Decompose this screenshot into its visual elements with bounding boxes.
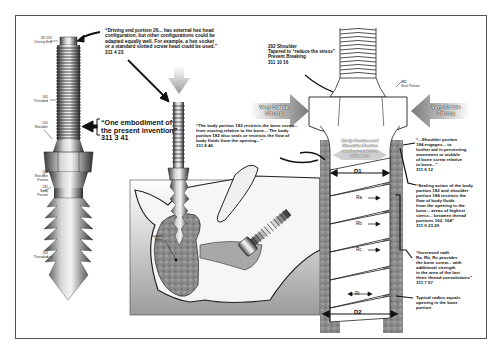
callout-shoulder-184: “...Shoulder portion 184 engages... to f… xyxy=(416,137,496,172)
callout-shoulder-202: 202 Shoulder Tapered to “reduce the stre… xyxy=(268,44,348,65)
label-seals-effluence: Body Portion and Shoulder Portion seals … xyxy=(330,138,390,158)
callout-driving-end: “Driving end portion 26... has external … xyxy=(105,28,235,55)
label-seat-portion: 164 Seat Portion xyxy=(401,81,431,89)
label-shoulder: 202 Shoulder xyxy=(18,122,48,130)
label-very-stable-right: Very Stable Strong xyxy=(425,104,467,116)
label-tapped-hole: Tapped Hole xyxy=(136,235,162,243)
label-very-stable-left: Very Stable Strong xyxy=(253,104,295,116)
label-threaded-top: 162 Threaded xyxy=(18,96,48,104)
label-threaded-bottom: 164 Threaded xyxy=(18,252,48,260)
dim-rt: Rt xyxy=(355,291,360,297)
dim-d1: D1 xyxy=(354,169,362,175)
label-body-portion: 182 Body Portion xyxy=(18,186,48,197)
dim-ra: Ra xyxy=(356,195,362,201)
label-driving-end: 26/ 162 Driving End xyxy=(18,37,52,45)
label-shoulder-portion: 184 Shoulder Portion xyxy=(18,171,48,182)
dim-d2: D2 xyxy=(354,310,362,316)
callout-typical-radius: Typical radius equals opening in the bon… xyxy=(416,295,486,310)
callout-body-portion: “The body portion 182 restricts the bone… xyxy=(196,123,316,148)
callout-increased-radii: “Increased radii Ra, Rb, Rc provides the… xyxy=(416,250,496,285)
left-screw-illustration xyxy=(43,37,93,300)
dim-rb: Rb xyxy=(356,221,362,227)
callout-embodiment: “One embodiment of the present invention… xyxy=(101,119,181,142)
callout-sealing-action: “Sealing action of the body portion 182 … xyxy=(416,183,496,228)
dim-rc: Rc xyxy=(356,247,362,253)
